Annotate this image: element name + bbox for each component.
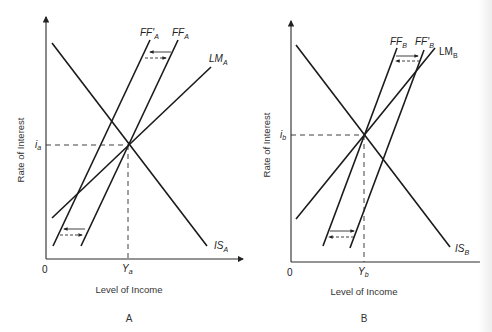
is-b-label: ISB — [455, 243, 469, 256]
lm-a-label: LMA — [209, 53, 228, 66]
lm-b-label: LMB — [439, 46, 458, 59]
panel-b: FFB FF'B LMB ISB ib Yb 0 Level of Income… — [261, 21, 480, 324]
lm-a-curve — [52, 67, 211, 218]
origin-a-label: 0 — [42, 264, 48, 275]
panel-a: FF'A FFA LMA ISA ia Ya 0 Level of Income… — [15, 17, 243, 324]
ff-a-label: FFA — [172, 27, 189, 40]
ff-a-prime-label: FF'A — [140, 27, 159, 40]
y-axis-b-label: Rate of Interest — [261, 112, 272, 177]
ff-b-label: FFB — [390, 36, 407, 49]
ff-a-prime-curve — [53, 40, 150, 246]
ia-label: ia — [35, 139, 41, 151]
is-a-label: ISA — [214, 240, 228, 253]
ya-label: Ya — [122, 263, 133, 275]
ff-b-prime-curve — [350, 50, 424, 248]
ff-a-curve — [81, 40, 178, 246]
x-axis-b-label: Level of Income — [330, 286, 397, 297]
yb-label: Yb — [358, 266, 369, 278]
ff-b-prime-label: FF'B — [415, 36, 434, 49]
page-edge-shadow — [478, 0, 492, 332]
origin-b-label: 0 — [287, 267, 293, 278]
x-axis-a-label: Level of Income — [95, 284, 162, 295]
y-axis-a-label: Rate of Interest — [15, 117, 26, 182]
ff-b-curve — [323, 48, 397, 246]
panel-b-label: B — [361, 313, 368, 324]
is-lm-ff-diagram: FF'A FFA LMA ISA ia Ya 0 Level of Income… — [0, 0, 492, 332]
panel-a-label: A — [126, 313, 133, 324]
ib-label: ib — [280, 129, 286, 141]
is-b-curve — [296, 45, 450, 247]
